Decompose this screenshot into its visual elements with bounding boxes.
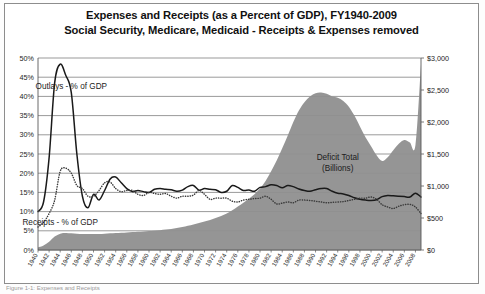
- chart-annotation: Deficit Total: [317, 153, 359, 162]
- right-axis-tick: $1,500: [427, 150, 449, 159]
- left-axis-tick: 35%: [20, 111, 35, 120]
- chart-title-block: Expenses and Receipts (as a Percent of G…: [4, 8, 479, 37]
- chart-svg: 0%5%10%15%20%25%30%35%40%45%50% $0$500$1…: [4, 45, 479, 285]
- figure-caption: Figure 1-1: Expenses and Receipts: [6, 285, 306, 294]
- right-axis-tick: $1,000: [427, 182, 449, 191]
- chart-title-line-2: Social Security, Medicare, Medicaid - Re…: [4, 23, 479, 38]
- right-axis-tick-labels: $0$500$1,000$1,500$2,000$2,500$3,000: [421, 54, 449, 255]
- left-axis-tick: 25%: [20, 150, 35, 159]
- right-axis-tick: $0: [427, 246, 435, 255]
- left-axis-tick: 40%: [20, 92, 35, 101]
- left-axis-tick: 45%: [20, 73, 35, 82]
- left-axis-tick: 15%: [20, 188, 35, 197]
- chart-annotation: (Billions): [322, 164, 354, 173]
- figure-container: Expenses and Receipts (as a Percent of G…: [0, 0, 485, 294]
- chart-plot-area: 0%5%10%15%20%25%30%35%40%45%50% $0$500$1…: [4, 45, 479, 285]
- left-axis-tick: 30%: [20, 130, 35, 139]
- right-axis-tick: $500: [427, 214, 443, 223]
- chart-annotation: Outlays - % of GDP: [36, 82, 108, 91]
- chart-annotation: Receipts - % of GDP: [22, 218, 98, 227]
- left-axis-tick: 50%: [20, 54, 35, 63]
- x-axis-tick-labels: 1940194219441946194819501952195419561958…: [26, 250, 417, 267]
- right-axis-tick: $2,000: [427, 118, 449, 127]
- x-axis-tick: 2008: [403, 252, 416, 268]
- chart-title-line-1: Expenses and Receipts (as a Percent of G…: [4, 8, 479, 23]
- left-axis-tick: 5%: [24, 226, 35, 235]
- right-axis-tick: $2,500: [427, 86, 449, 95]
- left-axis-tick: 10%: [20, 207, 35, 216]
- right-axis-tick: $3,000: [427, 54, 449, 63]
- left-axis-tick: 20%: [20, 169, 35, 178]
